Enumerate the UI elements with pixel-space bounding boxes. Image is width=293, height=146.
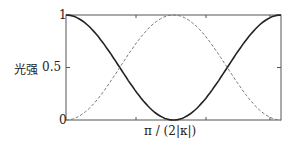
x-axis-label: π / (2|κ|) [144, 124, 196, 138]
y-axis-label: 光强 [14, 60, 38, 77]
ytick-1: 1 [59, 8, 67, 22]
ytick-0: 0 [59, 113, 67, 127]
dashed-curve [66, 15, 281, 120]
ticks [66, 15, 281, 120]
ytick-0-5: 0.5 [42, 60, 61, 74]
solid-curve [66, 15, 281, 120]
plot-frame [66, 15, 281, 120]
